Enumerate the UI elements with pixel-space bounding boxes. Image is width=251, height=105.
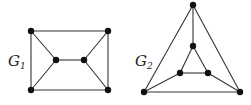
graph-figure: G1G2 (0, 0, 251, 105)
graph-vertex (105, 87, 111, 93)
graphs-svg: G1G2 (0, 0, 251, 105)
graph-edge (193, 5, 240, 92)
graph-vertex (177, 70, 183, 76)
graph-vertex (141, 89, 147, 95)
graph-edge (31, 60, 56, 90)
graph-vertex (28, 87, 34, 93)
graph-vertex (205, 70, 211, 76)
graph-edge (193, 46, 208, 73)
graph-vertex (53, 57, 59, 63)
graph-vertex (105, 28, 111, 34)
graph-edge (31, 31, 56, 60)
graph-g1: G1 (8, 28, 111, 93)
graph-vertex (28, 28, 34, 34)
graph-vertex (190, 43, 196, 49)
graph-label: G1 (8, 52, 26, 71)
graph-vertex (81, 57, 87, 63)
graph-vertex (237, 89, 243, 95)
graph-g2: G2 (135, 2, 243, 95)
graph-edge (84, 31, 108, 60)
graph-vertex (190, 2, 196, 8)
graph-label: G2 (135, 52, 153, 71)
graph-edge (84, 60, 108, 90)
graph-edge (180, 46, 193, 73)
